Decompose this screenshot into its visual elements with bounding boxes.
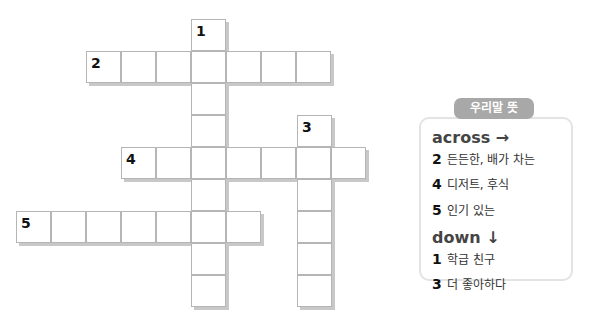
crossword-cell[interactable] — [297, 211, 332, 243]
clue-number: 1 — [432, 251, 442, 267]
crossword-cell[interactable] — [297, 243, 332, 275]
crossword-cell[interactable] — [226, 147, 261, 179]
clue-number-label: 3 — [302, 119, 312, 135]
crossword-cell[interactable] — [86, 211, 121, 243]
crossword-cell-start-3[interactable]: 3 — [297, 115, 332, 147]
clue-number-label: 2 — [91, 55, 101, 71]
crossword-cell[interactable] — [191, 179, 226, 211]
clue-text: 학급 친구 — [447, 253, 495, 267]
clue-text: 더 좋아하다 — [447, 278, 506, 292]
crossword-cell[interactable] — [191, 243, 226, 275]
crossword-cell[interactable] — [191, 147, 226, 179]
crossword-cell[interactable] — [191, 211, 226, 243]
clue-number-label: 5 — [21, 215, 31, 231]
crossword-cell[interactable] — [297, 275, 332, 307]
crossword-cell[interactable] — [191, 275, 226, 307]
clue-number: 3 — [432, 276, 442, 292]
crossword-cell[interactable] — [296, 51, 331, 83]
crossword-cell[interactable] — [297, 179, 332, 211]
crossword-cell[interactable] — [156, 211, 191, 243]
clue-box-title: 우리말 뜻 — [454, 98, 534, 119]
clue-across-4: 4디저트, 후식 — [432, 175, 509, 192]
clue-across-5: 5인기 있는 — [432, 201, 495, 218]
crossword-cell-start-4[interactable]: 4 — [121, 147, 156, 179]
clue-text: 든든한, 배가 차는 — [447, 153, 535, 167]
crossword-cell-start-1[interactable]: 1 — [191, 19, 226, 51]
crossword-cell[interactable] — [121, 211, 156, 243]
crossword-cell[interactable] — [156, 147, 191, 179]
clue-number: 4 — [432, 176, 442, 192]
clue-number: 2 — [432, 151, 442, 167]
crossword-cell[interactable] — [296, 147, 331, 179]
crossword-cell-start-5[interactable]: 5 — [16, 211, 51, 243]
clue-down-3: 3더 좋아하다 — [432, 275, 506, 292]
crossword-cell[interactable] — [226, 211, 261, 243]
crossword-cell[interactable] — [121, 51, 156, 83]
crossword-cell[interactable] — [331, 147, 366, 179]
clue-number-label: 4 — [126, 151, 136, 167]
clue-down-1: 1학급 친구 — [432, 250, 495, 267]
crossword-cell[interactable] — [261, 51, 296, 83]
crossword-cell[interactable] — [261, 147, 296, 179]
crossword-cell-start-2[interactable]: 2 — [86, 51, 121, 83]
clue-text: 디저트, 후식 — [447, 178, 510, 192]
crossword-cell[interactable] — [191, 51, 226, 83]
crossword-cell[interactable] — [51, 211, 86, 243]
clue-across-2: 2든든한, 배가 차는 — [432, 150, 535, 167]
across-heading: across → — [432, 128, 509, 147]
clue-text: 인기 있는 — [447, 204, 495, 218]
crossword-cell[interactable] — [226, 51, 261, 83]
clue-number: 5 — [432, 202, 442, 218]
down-heading: down ↓ — [432, 228, 500, 247]
crossword-cell[interactable] — [191, 115, 226, 147]
crossword-cell[interactable] — [156, 51, 191, 83]
clue-number-label: 1 — [196, 23, 206, 39]
crossword-cell[interactable] — [191, 83, 226, 115]
